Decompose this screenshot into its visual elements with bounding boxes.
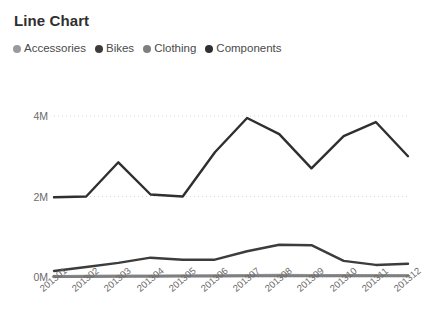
legend-item-clothing[interactable]: Clothing <box>143 43 196 55</box>
x-tick-label: 201302 <box>70 266 100 294</box>
y-tick-label: 4M <box>18 111 48 122</box>
chart-legend: Accessories Bikes Clothing Components <box>13 43 282 55</box>
x-tick-label: 201304 <box>135 266 165 294</box>
page-title: Line Chart <box>14 12 89 29</box>
legend-item-label: Bikes <box>106 43 134 55</box>
legend-item-accessories[interactable]: Accessories <box>13 43 86 55</box>
legend-dot-icon <box>205 45 213 53</box>
x-tick-label: 201303 <box>102 266 132 294</box>
x-tick-label: 201310 <box>328 266 358 294</box>
series-line-bikes <box>54 245 408 271</box>
legend-item-label: Accessories <box>24 43 86 55</box>
series-lines <box>54 118 408 277</box>
x-tick-label: 201307 <box>231 266 261 294</box>
x-tick-label: 201308 <box>263 266 293 294</box>
series-line-components <box>54 118 408 197</box>
x-tick-label: 201311 <box>360 266 390 293</box>
gridlines <box>54 116 408 277</box>
legend-item-label: Clothing <box>154 43 196 55</box>
legend-item-components[interactable]: Components <box>205 43 281 55</box>
x-tick-label: 201309 <box>295 266 325 294</box>
x-tick-label: 201301 <box>38 266 68 294</box>
x-tick-label: 201312 <box>392 266 422 294</box>
legend-dot-icon <box>95 45 103 53</box>
y-tick-label: 2M <box>18 192 48 203</box>
x-tick-label: 201305 <box>167 266 197 294</box>
legend-item-label: Components <box>216 43 281 55</box>
legend-dot-icon <box>13 45 21 53</box>
x-tick-label: 201306 <box>199 266 229 294</box>
legend-item-bikes[interactable]: Bikes <box>95 43 134 55</box>
legend-dot-icon <box>143 45 151 53</box>
